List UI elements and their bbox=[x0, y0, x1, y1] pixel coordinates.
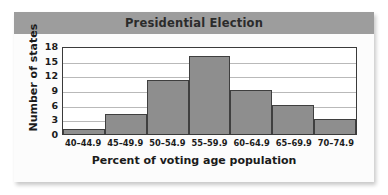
y-tick-label: 9 bbox=[42, 86, 58, 96]
histogram-bar bbox=[230, 90, 272, 134]
x-tick-label: 40–44.9 bbox=[62, 138, 104, 148]
y-axis-title: Number of states bbox=[27, 32, 40, 132]
histogram-bar bbox=[189, 56, 231, 134]
chart-title: Presidential Election bbox=[125, 16, 263, 30]
plot-area bbox=[62, 47, 357, 135]
x-tick-label: 65–69.9 bbox=[273, 138, 315, 148]
histogram-bar bbox=[105, 114, 147, 134]
x-tick-label: 55–59.9 bbox=[188, 138, 230, 148]
x-tick-label: 45–49.9 bbox=[104, 138, 146, 148]
y-tick-label: 15 bbox=[42, 57, 58, 67]
y-tick-label: 0 bbox=[42, 130, 58, 140]
plot-wrapper bbox=[62, 47, 357, 135]
y-tick-label: 12 bbox=[42, 71, 58, 81]
x-tick-label: 50–54.9 bbox=[146, 138, 188, 148]
histogram-bar bbox=[314, 119, 356, 134]
bars-layer bbox=[63, 48, 356, 134]
y-tick-label: 6 bbox=[42, 101, 58, 111]
y-axis-tick-labels: 0369121518 bbox=[40, 47, 58, 135]
x-axis-tick-labels: 40–44.945–49.950–54.955–59.960–64.965–69… bbox=[62, 138, 357, 148]
histogram-figure-card: Presidential Election Number of states 0… bbox=[14, 12, 374, 182]
histogram-bar bbox=[63, 129, 105, 134]
histogram-bar bbox=[147, 80, 189, 134]
x-tick-label: 70–74.9 bbox=[315, 138, 357, 148]
x-axis-title: Percent of voting age population bbox=[14, 154, 374, 167]
x-tick-label: 60–64.9 bbox=[231, 138, 273, 148]
histogram-bar bbox=[272, 105, 314, 134]
chart-title-bar: Presidential Election bbox=[14, 12, 374, 34]
y-tick-label: 3 bbox=[42, 115, 58, 125]
y-tick-label: 18 bbox=[42, 42, 58, 52]
